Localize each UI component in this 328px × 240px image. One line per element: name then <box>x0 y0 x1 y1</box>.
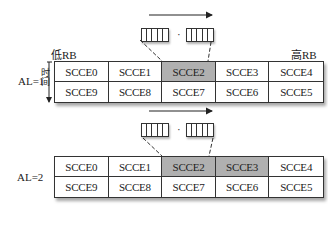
scce-cell: SCCE0 <box>55 62 109 82</box>
al2-label: AL=2 <box>17 171 43 183</box>
scce-cell-highlighted: SCCE3 <box>216 157 270 177</box>
scce-cell: SCCE6 <box>216 82 270 102</box>
register-block-right-2 <box>186 123 214 137</box>
scce-grid-al2: SCCE0 SCCE1 SCCE2 SCCE3 SCCE4 SCCE9 SCCE… <box>54 156 324 198</box>
scce-cell: SCCE7 <box>162 177 216 197</box>
scce-cell: SCCE9 <box>55 177 109 197</box>
high-rb-label: 高RB <box>291 46 317 62</box>
low-rb-label: 低RB <box>51 46 77 62</box>
scce-cell: SCCE8 <box>109 177 163 197</box>
ellipsis-dots-2: · <box>177 123 181 135</box>
register-block-right-1 <box>186 28 214 42</box>
scce-cell: SCCE4 <box>269 157 323 177</box>
scce-cell: SCCE1 <box>109 157 163 177</box>
scce-cell-highlighted: SCCE2 <box>162 157 216 177</box>
scce-cell: SCCE5 <box>269 177 323 197</box>
scce-cell-highlighted: SCCE2 <box>162 62 216 82</box>
scce-cell: SCCE5 <box>269 82 323 102</box>
scce-cell: SCCE3 <box>216 62 270 82</box>
scce-cell: SCCE6 <box>216 177 270 197</box>
scce-cell: SCCE9 <box>55 82 109 102</box>
register-block-left-2 <box>141 123 169 137</box>
scce-cell: SCCE7 <box>162 82 216 102</box>
scce-grid-al1: SCCE0 SCCE1 SCCE2 SCCE3 SCCE4 SCCE9 SCCE… <box>54 61 324 103</box>
scce-cell: SCCE1 <box>109 62 163 82</box>
ellipsis-dots-1: · <box>177 28 181 40</box>
time-axis-label: 时间 <box>40 68 49 86</box>
scce-cell: SCCE4 <box>269 62 323 82</box>
register-block-left-1 <box>141 28 169 42</box>
scce-cell: SCCE0 <box>55 157 109 177</box>
scce-cell: SCCE8 <box>109 82 163 102</box>
